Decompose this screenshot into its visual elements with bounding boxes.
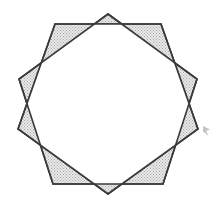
figure-canvas (0, 0, 218, 207)
overlapping-pentagons-diagram (0, 0, 218, 207)
